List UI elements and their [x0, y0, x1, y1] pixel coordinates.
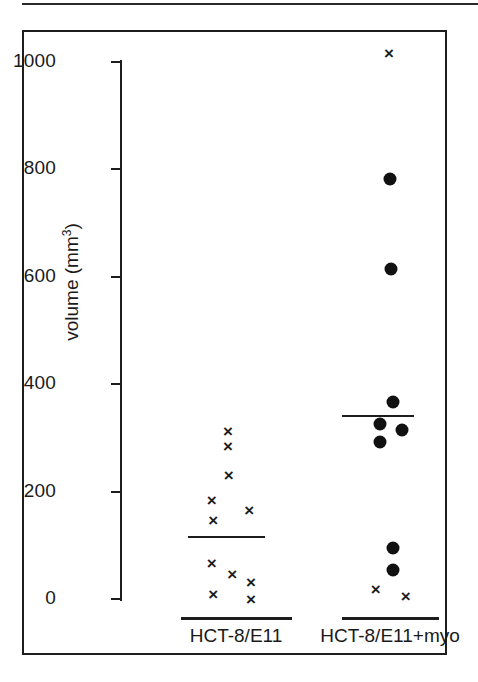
y-axis-tick-label-600: 600 [0, 266, 56, 285]
data-point-g2-3 [386, 395, 399, 408]
data-point-g2-2 [385, 263, 398, 276]
figure-frame: volume (mm3) 02004006008001000 ×××××××××… [22, 30, 447, 655]
mean-line-group-1 [188, 536, 265, 538]
data-point-g1-1: × [221, 438, 235, 454]
y-axis-title-paren: ) [61, 223, 82, 229]
y-axis-tick-label-200: 200 [0, 481, 56, 500]
data-point-g2-0: × [382, 45, 396, 61]
page-top-rule [22, 3, 478, 5]
mean-line-group-2 [342, 415, 414, 417]
y-axis-tick-label-0: 0 [0, 588, 56, 607]
y-axis-tick-label-1000: 1000 [0, 51, 56, 70]
data-point-g2-4 [373, 417, 386, 430]
data-point-g1-2: × [222, 467, 236, 483]
y-axis-tick-label-800: 800 [0, 158, 56, 177]
data-point-g2-8 [386, 564, 399, 577]
plot-area: volume (mm3) 02004006008001000 ×××××××××… [24, 32, 445, 653]
data-point-g1-5: × [206, 512, 220, 528]
data-point-g1-3: × [205, 492, 219, 508]
y-axis-tick-600 [111, 276, 120, 278]
y-axis-tick-800 [111, 168, 120, 170]
y-axis-line [120, 60, 122, 601]
y-axis-tick-label-400: 400 [0, 373, 56, 392]
group-label-2: HCT-8/E11+myo [290, 625, 478, 647]
data-point-g2-9: × [369, 581, 383, 597]
data-point-g1-9: × [206, 586, 220, 602]
y-axis-title: volume (mm3) [62, 182, 82, 382]
y-axis-title-superscript: 3 [60, 230, 74, 237]
data-point-g2-1 [384, 173, 397, 186]
group-rule-2 [342, 617, 439, 620]
y-axis-tick-1000 [111, 61, 120, 63]
data-point-g1-4: × [242, 502, 256, 518]
y-axis-title-text: volume (mm [61, 236, 82, 341]
data-point-g2-6 [373, 436, 386, 449]
data-point-g2-10: × [399, 588, 413, 604]
data-point-g2-5 [396, 423, 409, 436]
y-axis-tick-400 [111, 383, 120, 385]
y-axis-tick-0 [111, 598, 120, 600]
y-axis-tick-200 [111, 491, 120, 493]
data-point-g2-7 [386, 541, 399, 554]
data-point-g1-8: × [244, 574, 258, 590]
data-point-g1-7: × [225, 566, 239, 582]
group-rule-1 [181, 617, 292, 620]
data-point-g1-6: × [205, 555, 219, 571]
data-point-g1-10: × [244, 591, 258, 607]
